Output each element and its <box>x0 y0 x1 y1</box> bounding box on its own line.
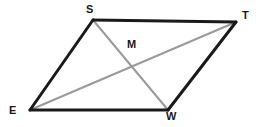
side-t-w <box>168 22 236 110</box>
vertex-label-w: W <box>166 111 176 122</box>
parallelogram-figure: S T M E W <box>0 0 259 127</box>
geometry-canvas <box>0 0 259 127</box>
vertex-label-t: T <box>242 10 249 21</box>
side-s-t <box>93 20 236 22</box>
vertex-label-s: S <box>86 4 93 15</box>
vertex-label-e: E <box>9 105 16 116</box>
vertex-label-m: M <box>127 39 136 50</box>
diagonal-s-w <box>93 20 168 110</box>
